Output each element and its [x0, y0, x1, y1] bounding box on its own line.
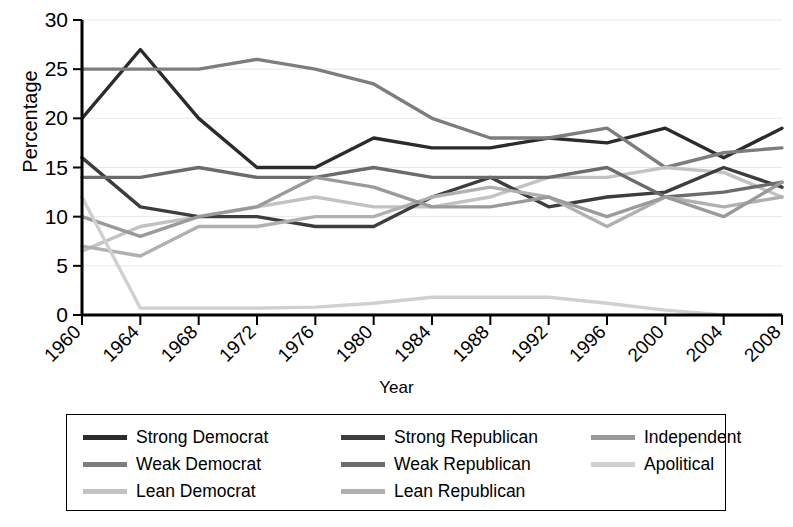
x-axis-tick-label: 1996	[565, 321, 610, 366]
x-axis-tick-label: 1984	[390, 321, 435, 366]
y-axis-title: Percentage	[19, 32, 42, 212]
x-axis-tick-label: 2008	[740, 321, 785, 366]
legend-swatch-icon	[83, 462, 127, 467]
x-axis-tick-label: 2004	[682, 321, 727, 366]
legend-item[interactable]: Strong Democrat	[83, 429, 341, 447]
legend-swatch-icon	[341, 462, 385, 467]
y-axis-tick-label: 15	[45, 156, 68, 179]
x-axis-tick-label: 1964	[98, 321, 143, 366]
legend-item[interactable]: Lean Democrat	[83, 483, 341, 501]
legend-item[interactable]: Weak Republican	[341, 456, 591, 474]
legend-item[interactable]: Strong Republican	[341, 429, 591, 447]
party-identification-line-chart: 0510152025301960196419681972197619801984…	[0, 0, 793, 527]
series-line	[82, 50, 782, 168]
legend-swatch-icon	[341, 489, 385, 494]
y-axis-tick-label: 10	[45, 205, 68, 228]
legend-swatch-icon	[83, 489, 127, 494]
x-axis-tick-label: 1976	[273, 321, 318, 366]
series-line	[82, 59, 782, 167]
legend-item-label: Apolitical	[644, 456, 714, 474]
legend-item-label: Lean Democrat	[136, 483, 256, 501]
legend-item-label: Independent	[644, 429, 741, 447]
legend-item-label: Strong Republican	[394, 429, 538, 447]
legend-swatch-icon	[591, 435, 635, 440]
legend-item[interactable]: Lean Republican	[341, 483, 591, 501]
x-axis-tick-label: 1968	[157, 321, 202, 366]
x-axis-title: Year	[0, 378, 793, 398]
x-axis-tick-label: 1972	[215, 321, 260, 366]
legend-item-label: Lean Republican	[394, 483, 525, 501]
legend-item[interactable]: Independent	[591, 429, 741, 447]
y-axis-tick-label: 0	[56, 303, 68, 326]
series-line	[82, 168, 782, 198]
legend-grid: Strong DemocratStrong RepublicanIndepend…	[67, 424, 725, 505]
legend-item-label: Weak Republican	[394, 456, 531, 474]
legend-item-label: Weak Democrat	[136, 456, 261, 474]
y-axis-tick-label: 5	[56, 254, 68, 277]
y-axis-tick-label: 20	[45, 106, 68, 129]
chart-svg: 0510152025301960196419681972197619801984…	[0, 0, 793, 400]
y-axis-tick-label: 30	[45, 8, 68, 31]
legend-item[interactable]: Apolitical	[591, 456, 741, 474]
legend-swatch-icon	[591, 462, 635, 467]
legend-item-label: Strong Democrat	[136, 429, 268, 447]
plot-area: 0510152025301960196419681972197619801984…	[0, 0, 793, 400]
x-axis-tick-label: 1988	[448, 321, 493, 366]
legend-item[interactable]: Weak Democrat	[83, 456, 341, 474]
y-axis-tick-label: 25	[45, 57, 68, 80]
x-axis-tick-label: 1980	[332, 321, 377, 366]
legend-swatch-icon	[341, 435, 385, 440]
x-axis-tick-label: 1960	[40, 321, 85, 366]
legend-swatch-icon	[83, 435, 127, 440]
x-axis-tick-label: 2000	[623, 321, 668, 366]
chart-legend: Strong DemocratStrong RepublicanIndepend…	[66, 414, 726, 511]
x-axis-tick-label: 1992	[507, 321, 552, 366]
series-line	[82, 168, 782, 252]
